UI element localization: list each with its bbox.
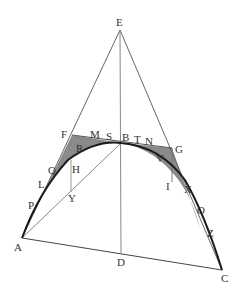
label-O: O	[197, 204, 205, 216]
label-H: H	[72, 163, 80, 175]
label-Q: Q	[48, 164, 56, 176]
label-I: I	[166, 180, 170, 192]
label-L: L	[38, 178, 45, 190]
label-V: V	[156, 152, 164, 164]
label-B: B	[122, 131, 129, 143]
label-Y: Y	[68, 192, 76, 204]
label-M: M	[90, 128, 100, 140]
label-N: N	[145, 135, 153, 147]
diagram-canvas: E F M S B T N G R V Q H L I X P Y O Z A …	[0, 0, 240, 296]
parabola-diagram: E F M S B T N G R V Q H L I X P Y O Z A …	[0, 0, 240, 296]
label-X: X	[184, 183, 192, 195]
label-F: F	[61, 128, 67, 140]
label-A: A	[14, 241, 22, 253]
label-E: E	[116, 16, 123, 28]
label-Z: Z	[207, 227, 214, 239]
label-R: R	[76, 142, 84, 154]
label-S: S	[106, 130, 112, 142]
label-D: D	[117, 256, 125, 268]
parabola-ABC	[22, 143, 222, 270]
label-C: C	[221, 272, 228, 284]
label-G: G	[175, 143, 183, 155]
label-P: P	[28, 199, 34, 211]
label-T: T	[134, 133, 141, 145]
